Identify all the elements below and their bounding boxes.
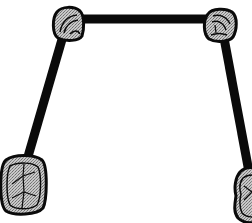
dental-appliance-diagram (0, 0, 252, 223)
tooth-bottom-left-icon (1, 156, 47, 215)
left-bar-wire (27, 36, 63, 160)
tooth-top-left-icon (53, 7, 83, 40)
tooth-bottom-right-icon (235, 168, 252, 223)
right-bar-wire (224, 38, 249, 172)
tooth-top-right-icon (204, 9, 236, 41)
